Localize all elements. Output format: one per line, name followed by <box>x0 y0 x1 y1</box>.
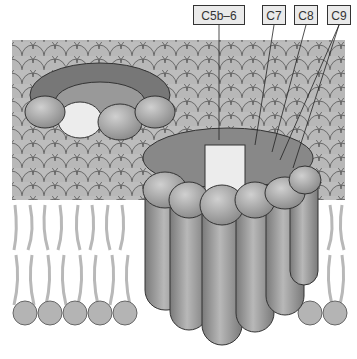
mac-diagram <box>0 0 357 359</box>
label-c5b6: C5b–6 <box>193 5 245 25</box>
large-pore <box>143 128 321 345</box>
label-c7: C7 <box>262 5 286 25</box>
label-c8: C8 <box>294 5 318 25</box>
label-c9: C9 <box>327 5 351 25</box>
